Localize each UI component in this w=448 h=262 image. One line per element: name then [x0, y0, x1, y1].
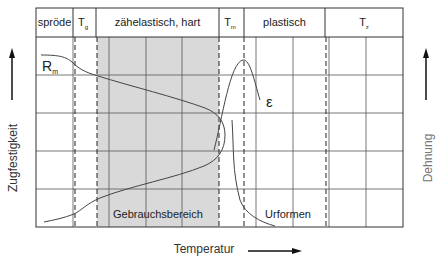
header-plastisch: plastisch [263, 16, 306, 28]
elongation-curve-label: ε [266, 93, 273, 110]
header-tz: Tz [359, 16, 369, 30]
bottom-axis-arrow [248, 248, 302, 254]
left-axis-arrow [9, 48, 15, 100]
forming-label: Urformen [265, 208, 311, 220]
grid-horizontal-lines [36, 75, 403, 189]
header-row [36, 8, 403, 37]
strength-curve-label: Rm [42, 58, 58, 75]
bottom-axis-label: Temperatur [174, 242, 235, 256]
usage-range-label: Gebrauchsbereich [113, 208, 203, 220]
header-tg: Tg [78, 16, 88, 30]
header-zaehelastisch: zähelastisch, hart [115, 16, 201, 28]
left-axis-label: Zugfestigkeit [6, 123, 20, 192]
usage-range-shade [97, 37, 219, 227]
header-tm: Tm [224, 16, 236, 30]
header-sproede: spröde [38, 16, 72, 28]
temperature-behavior-diagram: spröde Tg zähelastisch, hart Tm plastisc… [0, 0, 448, 262]
right-axis-label: Dehnung [421, 134, 435, 183]
right-axis-arrow [423, 48, 429, 100]
